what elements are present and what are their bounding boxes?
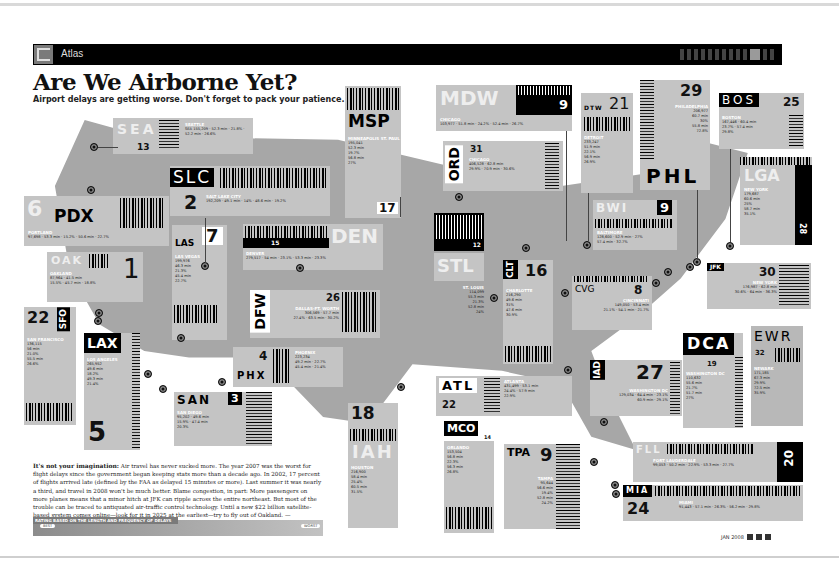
- rank: 21: [609, 96, 629, 112]
- location-pin-icon: [600, 418, 608, 426]
- location-pin-icon: [90, 143, 98, 151]
- airport-code: SAN: [177, 394, 211, 406]
- airport-card-stl: 12 STL ST. LOUIS114,09955.3 min21.3%52.8…: [434, 213, 496, 341]
- airport-card-jfk: JFK 30 NEW YORK176,987 · 62.8 min30.6% ·…: [707, 263, 811, 309]
- airport-card-dca: DCA 19 WASHINGTON DC110,63255.6 min21.7%…: [683, 333, 743, 428]
- rank: 1: [123, 256, 140, 282]
- airport-code: ORD: [445, 145, 463, 183]
- barcode: [120, 198, 165, 228]
- location-pin-icon: [94, 317, 102, 325]
- rank-block: 9: [516, 85, 572, 115]
- stats: LAS VEGAS199,97646.3 min21.3%45.4 min22.…: [175, 254, 200, 284]
- rank: 27: [636, 362, 664, 382]
- location-pin-icon: [490, 294, 498, 302]
- airport-code: DFW: [250, 290, 270, 333]
- airport-code: MCO: [444, 421, 478, 436]
- rank: 12: [473, 242, 481, 248]
- rank: 18: [351, 405, 375, 422]
- location-pin-icon: [159, 385, 167, 393]
- location-pin-icon: [177, 334, 185, 342]
- airport-card-fll: FLL 20 FORT LAUDERDALE99,053 · 50.2 min …: [633, 442, 803, 482]
- rank: 13: [137, 143, 150, 152]
- airport-code: IAH: [352, 443, 394, 461]
- airport-code: EWR: [754, 329, 792, 343]
- stats: DETROIT233,24751.9 min22.1%56.9 min26.9%: [584, 135, 632, 165]
- rank: 3: [228, 392, 242, 405]
- stats: SALT LAKE CITY192,209 · 49.1 min · 14% ·…: [206, 194, 286, 204]
- airport-code: DEN: [331, 226, 378, 246]
- airport-card-slc: SLC 2 SALT LAKE CITY192,209 · 49.1 min ·…: [170, 166, 330, 216]
- location-pin-icon: [87, 186, 95, 194]
- airport-code: IAD: [590, 360, 605, 380]
- stats: CINCINNATI149,050 · 53.4 min21.1% · 54.1…: [575, 298, 649, 313]
- barcode: [342, 292, 378, 332]
- airport-code: BOS: [719, 93, 759, 107]
- rank: 9: [540, 446, 553, 464]
- stats: NEW YORK179,68760.6 min25%58.7 min35.1%: [744, 187, 768, 217]
- airport-card-ewr: EWR 32 NEWARK171,18567.3 min29.9%72.5 mi…: [751, 326, 803, 426]
- airport-card-bos: BOS 25 BOSTON167,446 · 60.4 min23.7% · 5…: [719, 93, 804, 149]
- stats: BOSTON167,446 · 60.4 min23.7% · 57.4 min…: [722, 115, 756, 135]
- stats: HOUSTON216,90058.4 min25.4%60.5 min31.5%: [351, 465, 373, 495]
- barcode: [740, 157, 812, 165]
- airport-code: LAX: [84, 333, 121, 353]
- barcode: [484, 378, 500, 414]
- airport-card-lax: LAX LOS ANGELES265,95249.6 min18.2%49.3 …: [84, 333, 140, 450]
- barcode: [246, 392, 272, 446]
- stats: PHOENIX223,23449.2 min · 22.7%45.4 min ·…: [295, 350, 326, 370]
- stats: ATLANTA431,499 · 53.1 min24.4% · 57.9 mi…: [504, 379, 538, 399]
- article-lead: It's not your imagination:: [33, 462, 119, 469]
- location-pin-icon: [561, 289, 569, 297]
- airport-code: ATL: [439, 378, 477, 393]
- barcode: [505, 346, 551, 362]
- airport-code: MDW: [440, 88, 499, 108]
- rank: 2: [184, 193, 197, 212]
- location-pin-icon: [583, 241, 591, 249]
- barcode: [273, 349, 291, 383]
- barcode: [220, 168, 328, 188]
- rank: 28: [798, 223, 806, 234]
- rank: 9: [657, 200, 672, 215]
- airport-card-mia: MIA 24 MIAMI91,443 · 57.1 min · 26.3% · …: [623, 485, 803, 521]
- airport-card-mdw: MDW 9 CHICAGO103,977 · 51.8 min · 24.2% …: [436, 85, 572, 131]
- stats: CHARLOTTE216,29049.6 min31%47.6 min30.9%: [506, 288, 533, 318]
- stats: WASHINGTON DC129,034 · 64.4 min · 23.1%6…: [593, 388, 668, 403]
- barcode: [779, 265, 809, 307]
- airport-card-tpa: TPA 9 TAMPA95,64456.6 min19.4%52.8 min24…: [504, 444, 580, 529]
- airport-card-atl: ATL 22 ATLANTA431,499 · 53.1 min24.4% · …: [436, 376, 572, 416]
- stats: DALLAS-FT. WORTH306,569 · 57.7 min27.4% …: [274, 306, 339, 321]
- rank: 9: [559, 98, 568, 111]
- location-pin-icon: [218, 378, 226, 386]
- airport-card-sea: SEA 13 SEATTLESEA 155,209 · 52.3 min · 2…: [113, 118, 253, 154]
- barcode: [667, 444, 753, 454]
- airport-card-bwi: BWI 9 BALTIMORE128,600 · 52.9 min · 27%5…: [593, 200, 677, 250]
- airport-code: FLL: [636, 445, 662, 455]
- barcode: [89, 254, 109, 268]
- leader-line: [697, 190, 698, 260]
- stats: WASHINGTON DC110,63255.6 min21.7%51.7 mi…: [686, 371, 725, 401]
- airport-card-mco: MCO 14 ORLANDO153,50456.8 min22.3%56.3 m…: [444, 421, 496, 533]
- rank: 4: [259, 350, 267, 362]
- airport-code: LAS: [175, 239, 194, 248]
- airport-code: BWI: [596, 202, 628, 214]
- wired-logo-icon: [33, 44, 54, 65]
- stats: MIAMI91,443 · 57.1 min · 26.3% · 56.2 mi…: [679, 500, 760, 510]
- location-pin-icon: [652, 279, 660, 287]
- airport-card-dtw: DTW 21 DETROIT233,24751.9 min22.1%56.9 m…: [581, 93, 633, 193]
- barcode: [159, 120, 179, 150]
- rating-best-label: BEST: [40, 524, 55, 528]
- airport-card-cvg: CVG 8 CINCINNATI149,050 · 53.4 min21.1% …: [572, 276, 652, 330]
- airport-code: JFK: [707, 263, 724, 271]
- stats: PHILADELPHIA206,97760.7 min30%55.8 min72…: [658, 104, 708, 134]
- rank: 17: [377, 202, 398, 214]
- airport-card-ord: ORD 31 CHICAGO406,528 · 62.8 min29.9% · …: [443, 141, 563, 191]
- airport-code: SLC: [170, 168, 214, 187]
- location-pin-icon: [612, 490, 620, 498]
- airport-code: MSP: [348, 113, 390, 130]
- stats: CHICAGO103,977 · 51.8 min · 24.2% · 52.4…: [440, 117, 523, 127]
- stats: OAKLAND87,964 · 41.5 min15.5% · 45.7 min…: [50, 271, 96, 286]
- location-pin-icon: [201, 262, 209, 270]
- barcode: [347, 88, 399, 110]
- rank: 24: [627, 501, 649, 517]
- airport-card-iah: 18 IAH HOUSTON216,90058.4 min25.4%60.5 m…: [348, 403, 398, 528]
